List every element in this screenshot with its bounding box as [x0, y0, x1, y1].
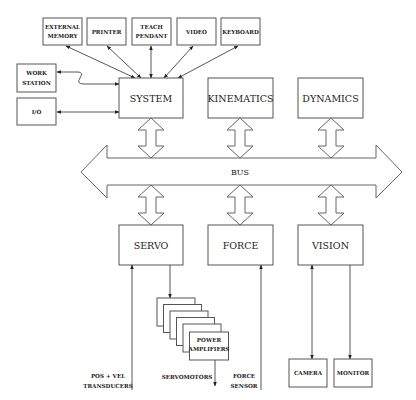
external-memory-label-line1: EXTERNAL: [45, 24, 80, 30]
printer-box: PRINTER: [87, 18, 126, 45]
force-box: FORCE: [208, 225, 273, 265]
system-box: SYSTEM: [119, 78, 183, 118]
pos-vel-label-line2: TRANSDUCERS: [83, 383, 132, 389]
power-amplifiers-label-line1: POWER: [197, 337, 222, 343]
vision-label: VISION: [311, 240, 349, 251]
kinematics-bus-double-arrow: [227, 118, 253, 158]
bus-label: BUS: [231, 168, 249, 177]
dynamics-box: DYNAMICS: [298, 78, 363, 118]
pos-vel-label-line1: POS + VEL: [91, 373, 125, 379]
force-sensor-label-line1: FORCE: [233, 373, 255, 379]
printer-label: PRINTER: [92, 29, 122, 35]
teach-pendant-box: TEACH PENDANT: [132, 18, 171, 45]
camera-box: CAMERA: [289, 359, 327, 387]
force-bus-double-arrow: [227, 185, 253, 225]
servo-box: SERVO: [119, 225, 183, 265]
servo-bus-double-arrow: [138, 185, 164, 225]
vision-bus-double-arrow: [318, 185, 344, 225]
keyboard-label: KEYBOARD: [222, 29, 259, 35]
signal-labels: POS + VEL TRANSDUCERS SERVOMOTORS FORCE …: [83, 373, 258, 389]
system-bus-double-arrow: [138, 118, 164, 158]
kinematics-box: KINEMATICS: [207, 78, 273, 118]
keyboard-link: [178, 46, 238, 78]
external-memory-box: EXTERNAL MEMORY: [43, 18, 82, 45]
robot-controller-block-diagram: EXTERNAL MEMORY PRINTER TEACH PENDANT VI…: [0, 0, 416, 400]
force-sensor-label-line2: SENSOR: [231, 383, 258, 389]
monitor-label: MONITOR: [337, 370, 370, 376]
servo-label: SERVO: [134, 240, 169, 251]
servomotors-label: SERVOMOTORS: [162, 374, 213, 380]
dynamics-label: DYNAMICS: [302, 93, 358, 104]
system-label: SYSTEM: [130, 93, 173, 104]
work-station-label-line1: WORK: [25, 70, 48, 76]
vision-box: VISION: [298, 225, 363, 265]
kinematics-label: KINEMATICS: [207, 93, 273, 104]
video-label: VIDEO: [185, 29, 207, 35]
monitor-box: MONITOR: [334, 359, 372, 387]
video-link: [164, 46, 193, 78]
work-station-link: [57, 72, 119, 84]
video-box: VIDEO: [177, 18, 216, 45]
power-amplifiers-label-line2: AMPLIFIERS: [188, 346, 230, 352]
camera-label: CAMERA: [294, 370, 323, 376]
io-box: I/O: [17, 98, 56, 125]
power-amplifier-stack: POWER AMPLIFIERS: [157, 298, 229, 360]
work-station-box: WORK STATION: [17, 64, 56, 92]
dynamics-bus-double-arrow: [318, 118, 344, 158]
io-label: I/O: [32, 109, 42, 115]
work-station-label-line2: STATION: [22, 80, 51, 86]
keyboard-box: KEYBOARD: [221, 18, 260, 45]
teach-pendant-label-line1: TEACH: [140, 24, 163, 30]
teach-pendant-label-line2: PENDANT: [135, 33, 168, 39]
external-memory-label-line2: MEMORY: [48, 33, 79, 39]
force-label: FORCE: [223, 240, 259, 251]
